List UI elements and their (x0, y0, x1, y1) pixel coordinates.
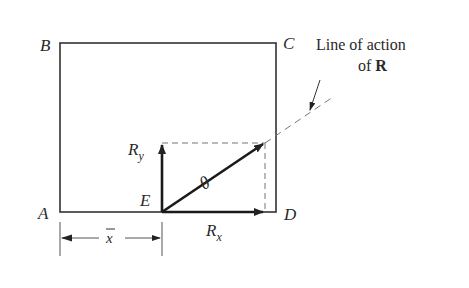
point-label-e: E (139, 191, 151, 210)
point-label-c: C (283, 34, 295, 53)
leader-arrow (310, 80, 320, 110)
annotation-line-2: of R (358, 57, 387, 74)
ry-label: Ry (127, 140, 144, 163)
resultant-vector-arrow (162, 144, 263, 212)
rx-label: Rx (205, 221, 222, 244)
point-label-a: A (37, 204, 49, 223)
plate-rectangle (60, 43, 276, 212)
x-bar-label: x (105, 230, 113, 246)
point-label-b: B (40, 36, 51, 55)
point-label-d: D (283, 205, 297, 224)
dimension-left-arrowhead (61, 235, 72, 242)
annotation-line-1: Line of action (316, 36, 406, 53)
angle-theta-label: θ (196, 172, 214, 194)
force-diagram: B C A D E Ry Rx θ x Line of action of R (0, 0, 469, 288)
